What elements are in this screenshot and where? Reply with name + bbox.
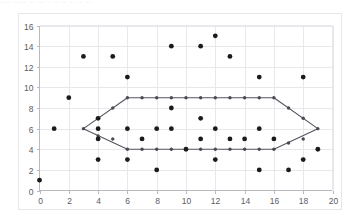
hull-vertex-marker (199, 96, 202, 99)
hull-vertex-marker (199, 148, 202, 151)
data-point (154, 126, 159, 131)
data-point (154, 167, 159, 172)
data-point (184, 147, 189, 152)
hull-vertex-marker (155, 148, 158, 151)
data-point (169, 126, 174, 131)
y-tick-label: 14 (24, 42, 34, 52)
data-point (242, 137, 247, 142)
hull-vertex-marker (272, 96, 275, 99)
hull-vertex-marker (126, 148, 129, 151)
data-point (125, 75, 130, 80)
data-point (228, 137, 233, 142)
hull-vertex-marker (170, 148, 173, 151)
hull-vertex-marker (111, 106, 114, 109)
hull-vertex-marker (287, 106, 290, 109)
hull-vertex-marker (214, 148, 217, 151)
hull-vertex-marker (302, 137, 305, 140)
x-tick-label: 12 (211, 196, 221, 206)
hull-vertex-marker (228, 96, 231, 99)
data-point (257, 167, 262, 172)
hull-vertex-marker (155, 96, 158, 99)
data-point (213, 33, 218, 38)
x-tick-label: 4 (96, 196, 101, 206)
data-point (257, 126, 262, 131)
hull-vertex-marker (243, 96, 246, 99)
y-tick-label: 6 (29, 125, 34, 135)
y-tick-label: 2 (29, 166, 34, 176)
convex-hull-outline (83, 98, 317, 150)
plot-svg: 02468101214161820 0246810121416 (0, 0, 359, 224)
hull-vertex-marker (243, 148, 246, 151)
screenshot-root: ··· ···· ·· ·· · · ·· ·· · ·· 0246810121… (0, 0, 359, 224)
hull-vertex-marker (287, 141, 290, 144)
y-tick-label: 10 (24, 83, 34, 93)
y-tick-label: 0 (29, 187, 34, 197)
hull-vertex-marker (184, 96, 187, 99)
y-tick-label: 16 (24, 22, 34, 32)
y-tick-label: 12 (24, 63, 34, 73)
data-point (96, 137, 101, 142)
data-point (96, 157, 101, 162)
data-point (66, 95, 71, 100)
data-point (213, 157, 218, 162)
hull-vertex-marker (258, 96, 261, 99)
y-tick-label: 4 (29, 145, 34, 155)
hull-vertex-marker (170, 96, 173, 99)
hull-vertex-marker (228, 148, 231, 151)
data-point (96, 126, 101, 131)
data-point (213, 126, 218, 131)
data-point (301, 157, 306, 162)
hull-vertex-marker (126, 96, 129, 99)
data-point (110, 54, 115, 59)
y-axis-tick-labels: 0246810121416 (24, 22, 34, 197)
data-point (257, 75, 262, 80)
hull-vertex-marker (258, 148, 261, 151)
data-point (315, 147, 320, 152)
x-tick-label: 2 (67, 196, 72, 206)
data-point (96, 116, 101, 121)
data-point (169, 44, 174, 49)
data-point (140, 137, 145, 142)
data-point (286, 167, 291, 172)
hull-vertex-marker (140, 96, 143, 99)
hull-vertex-marker (140, 148, 143, 151)
scatter-chart: 02468101214161820 0246810121416 (0, 0, 359, 224)
y-tick-label: 8 (29, 104, 34, 114)
x-tick-label: 0 (38, 196, 43, 206)
x-tick-label: 6 (125, 196, 130, 206)
x-tick-label: 18 (299, 196, 309, 206)
hull-vertex-marker (111, 137, 114, 140)
hull-vertex-marker (302, 117, 305, 120)
data-point (301, 75, 306, 80)
data-point (228, 54, 233, 59)
x-tick-label: 14 (241, 196, 251, 206)
x-axis-tick-labels: 02468101214161820 (38, 196, 338, 206)
x-tick-label: 8 (155, 196, 160, 206)
x-tick-label: 16 (270, 196, 280, 206)
hull-vertex-marker (214, 96, 217, 99)
data-point (169, 106, 174, 111)
hull-vertex-marker (82, 127, 85, 130)
data-point (37, 178, 42, 183)
x-tick-label: 10 (182, 196, 192, 206)
convex-hull-polygon (83, 98, 317, 150)
hull-vertex-marker (316, 127, 319, 130)
hull-vertex-marker (272, 148, 275, 151)
data-point (198, 137, 203, 142)
data-point (81, 54, 86, 59)
data-point (52, 126, 57, 131)
data-point (125, 126, 130, 131)
data-point (272, 137, 277, 142)
data-point (125, 157, 130, 162)
x-tick-label: 20 (329, 196, 339, 206)
data-point (198, 44, 203, 49)
data-point (198, 116, 203, 121)
